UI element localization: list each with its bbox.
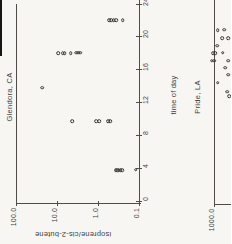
scatter-point — [216, 81, 220, 85]
scatter-point — [227, 37, 231, 41]
scatter-point — [63, 51, 67, 55]
scatter-point — [223, 28, 227, 32]
value-tick-label: 0.1 — [133, 208, 140, 218]
scatter-point — [40, 86, 44, 90]
value-tick-label: 1000.0 — [208, 208, 215, 231]
time-tick-label: 12 — [142, 96, 149, 104]
value-tick-label: 100.0 — [10, 207, 17, 226]
scatter-point — [228, 94, 231, 98]
time-tick-label: 4 — [142, 164, 149, 168]
scatter-point — [227, 59, 231, 63]
scatter-point — [121, 168, 125, 172]
time-tick-label: 0 — [142, 196, 149, 200]
scatter-point — [214, 51, 218, 55]
value-axis-tick — [214, 202, 215, 207]
glendora-panel-title: Glendora, CA — [4, 72, 13, 121]
scatter-point — [226, 73, 230, 77]
scanned-figure-page: Glendora, CA time of day isoprene/cis-2-… — [0, 0, 231, 244]
pride-value-axis-line — [214, 204, 232, 205]
scatter-point — [220, 37, 224, 41]
time-tick-label: 20 — [142, 30, 149, 38]
scatter-point — [215, 44, 219, 48]
isoprene-ratio-axis-label: isoprene/cis-2-butene — [35, 230, 111, 239]
scatter-point — [212, 59, 216, 63]
time-of-day-axis-label: time of day — [168, 76, 177, 115]
scatter-point — [109, 119, 113, 123]
scatter-point — [71, 120, 75, 124]
value-tick-label: 10.0 — [51, 208, 58, 222]
scatter-point — [221, 51, 225, 55]
scatter-point — [224, 66, 228, 70]
scatter-point — [121, 18, 125, 22]
time-tick-label: 16 — [142, 63, 149, 71]
time-tick-label: 8 — [142, 131, 149, 135]
scatter-point — [69, 51, 73, 55]
value-tick-label: 1.0 — [92, 208, 99, 218]
pride-top-frame-line — [214, 0, 215, 204]
value-axis-tick — [57, 201, 58, 206]
scatter-point — [98, 120, 102, 124]
value-axis-tick — [16, 201, 17, 206]
glendora-top-frame-line — [16, 4, 17, 203]
scatter-point — [79, 51, 83, 55]
glendora-value-axis-line — [16, 203, 141, 204]
scan-edge-artifact — [0, 0, 2, 56]
pride-panel-title: Pride, LA — [193, 80, 202, 114]
scatter-point — [216, 28, 220, 32]
scatter-point — [114, 19, 118, 23]
scatter-point — [56, 51, 60, 55]
value-axis-tick — [139, 201, 140, 206]
scatter-point — [226, 90, 230, 94]
time-tick-label: 24 — [142, 0, 149, 6]
value-axis-tick — [98, 201, 99, 206]
